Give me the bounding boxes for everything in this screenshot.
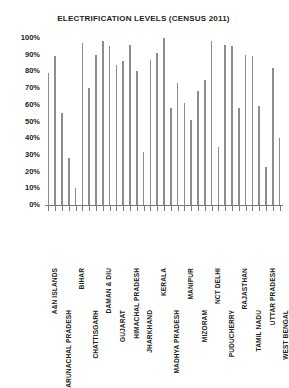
x-axis-tick-label: MIZORAM [201,310,208,342]
y-axis-tick: 20% [25,168,40,176]
x-axis-tick-label: PUDUCHERRY [228,310,235,357]
bar [156,53,158,205]
x-axis-tick-mark [144,206,145,211]
bar [129,45,131,205]
x-axis-tick-mark [76,206,77,211]
bar [211,41,213,205]
x-axis-tick-mark [232,206,233,211]
x-axis-tick-mark [198,206,199,211]
x-axis-tick-mark [239,206,240,211]
y-axis-tick: 50% [25,118,40,126]
x-axis-tick-label: RAJASTHAN [241,268,248,310]
bar [245,55,247,205]
x-axis-tick-mark [137,206,138,211]
x-axis-tick-mark [110,206,111,211]
x-axis-tick-mark [157,206,158,211]
x-axis-tick-mark [69,206,70,211]
x-axis-tick-mark [55,206,56,211]
plot-area [45,38,283,205]
bar [190,120,192,205]
bar [252,56,254,205]
x-axis-tick-mark [205,206,206,211]
bar [218,147,220,205]
x-axis-tick-mark [96,206,97,211]
x-axis-tick-label: TAMIL NADU [255,310,262,351]
x-axis-tick-mark [218,206,219,211]
bar [265,167,267,205]
bar [163,38,165,205]
x-axis-tick-mark [252,206,253,211]
bar [109,46,111,205]
x-axis-tick-label: NCT DELHI [214,268,221,304]
x-axis-tick-mark [259,206,260,211]
bar [150,60,152,205]
bar [204,80,206,205]
bar [279,138,281,205]
x-axis-tick-mark [89,206,90,211]
x-axis-tick-label: GUJARAT [119,310,126,342]
x-axis-tick-mark [184,206,185,211]
x-axis-tick-label: JHARKHAND [146,310,153,353]
x-axis-tick-mark [212,206,213,211]
y-axis-tick: 30% [25,151,40,159]
x-axis-tick-mark [130,206,131,211]
y-axis-tick: 90% [25,51,40,59]
bar [116,65,118,205]
bar [224,45,226,205]
bar [143,152,145,205]
bar [75,188,77,205]
x-axis-tick-label: KERALA [160,268,167,296]
y-axis-tick: 0% [29,201,40,209]
chart-title: ELECTRIFICATION LEVELS (CENSUS 2011) [0,14,287,23]
x-axis-tick-mark [150,206,151,211]
x-axis-tick-mark [48,206,49,211]
x-axis-tick-mark [171,206,172,211]
x-axis-tick-mark [191,206,192,211]
x-axis-tick-label: ARUNACHAL PRADESH [65,310,72,388]
bar [272,68,274,205]
bar [136,71,138,205]
y-axis-tick: 100% [21,34,40,42]
bar [177,83,179,205]
bar [258,106,260,205]
x-axis-tick-mark [62,206,63,211]
x-axis-tick-label: BIHAR [78,268,85,289]
bar [95,55,97,205]
bar [102,41,104,205]
bar [197,91,199,205]
y-axis: 100%90%80%70%60%50%40%30%20%10%0% [0,30,43,212]
x-axis-tick-mark [116,206,117,211]
x-axis-tick-label: MANIPUR [187,268,194,299]
bar [82,43,84,205]
x-axis-tick-label: UTTAR PRADESH [269,268,276,325]
y-axis-tick: 70% [25,84,40,92]
bar [238,108,240,205]
y-axis-tick: 80% [25,67,40,75]
bar [68,158,70,205]
x-axis-tick-mark [178,206,179,211]
x-axis-tick-mark [103,206,104,211]
x-axis-tick-mark [225,206,226,211]
bar [231,46,233,205]
x-axis-tick-mark [82,206,83,211]
x-axis-tick-label: WEST BENGAL [282,310,289,360]
bar [61,113,63,205]
x-axis-tick-label: MADHYA PRADESH [173,310,180,374]
x-axis-tick-mark [266,206,267,211]
x-axis-tick-mark [280,206,281,211]
x-axis-tick-mark [246,206,247,211]
bar [88,88,90,205]
y-axis-tick: 60% [25,101,40,109]
bar [54,56,56,205]
bar [122,61,124,205]
x-axis-tick-label: A&N ISLANDS [51,268,58,314]
bar [48,73,50,205]
y-axis-tick: 10% [25,184,40,192]
x-axis-labels: A&N ISLANDSARUNACHAL PRADESHBIHARCHATTIS… [45,206,283,310]
x-axis-tick-label: CHATTISGARH [92,310,99,359]
bar [170,108,172,205]
x-axis-tick-mark [273,206,274,211]
x-axis-tick-mark [164,206,165,211]
x-axis-tick-label: DAMAN & DIU [105,268,112,313]
